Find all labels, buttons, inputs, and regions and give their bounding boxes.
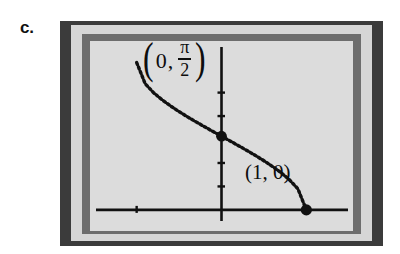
fraction-numerator: π (178, 38, 191, 58)
picture-frame-outer (60, 21, 383, 246)
arccos-plot-svg (90, 41, 353, 231)
y-intercept-x-value: 0 (156, 50, 167, 72)
figure-root: c. (0, 0, 400, 254)
plot-area (90, 41, 353, 231)
part-label: c. (20, 18, 34, 38)
x-intercept-dot (301, 204, 312, 215)
y-intercept-comma: , (168, 50, 174, 72)
y-intercept-label: ( 0 , π 2 ) (141, 38, 208, 80)
open-paren-glyph: ( (143, 42, 154, 76)
fraction-denominator: 2 (178, 60, 191, 80)
picture-frame-inner (82, 34, 361, 234)
y-intercept-dot (216, 131, 227, 142)
close-paren-glyph: ) (195, 42, 206, 76)
pi-over-two-fraction: π 2 (178, 38, 191, 80)
picture-frame-mat (71, 25, 372, 241)
x-intercept-label: (1, 0) (245, 162, 291, 183)
